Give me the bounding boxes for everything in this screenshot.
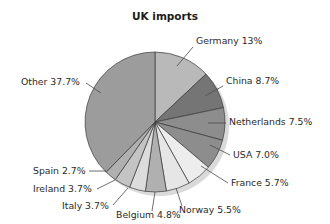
pie-chart-figure: Germany 13%China 8.7%Netherlands 7.5%USA…: [0, 0, 330, 224]
slice-label-other: Other 37.7%: [21, 76, 80, 87]
slice-label-ireland: Ireland 3.7%: [33, 183, 92, 194]
slice-label-norway: Norway 5.5%: [179, 204, 241, 215]
slice-label-usa: USA 7.0%: [233, 149, 279, 160]
chart-title: UK imports: [132, 10, 198, 22]
slice-label-italy: Italy 3.7%: [62, 200, 109, 211]
slice-label-germany: Germany 13%: [196, 35, 263, 46]
slice-label-netherlands: Netherlands 7.5%: [229, 116, 312, 127]
slice-label-belgium: Belgium 4.8%: [116, 209, 181, 220]
slice-label-china: China 8.7%: [226, 75, 279, 86]
pie-chart-canvas: Germany 13%China 8.7%Netherlands 7.5%USA…: [0, 0, 330, 224]
slice-label-spain: Spain 2.7%: [33, 165, 86, 176]
slice-label-france: France 5.7%: [231, 177, 289, 188]
